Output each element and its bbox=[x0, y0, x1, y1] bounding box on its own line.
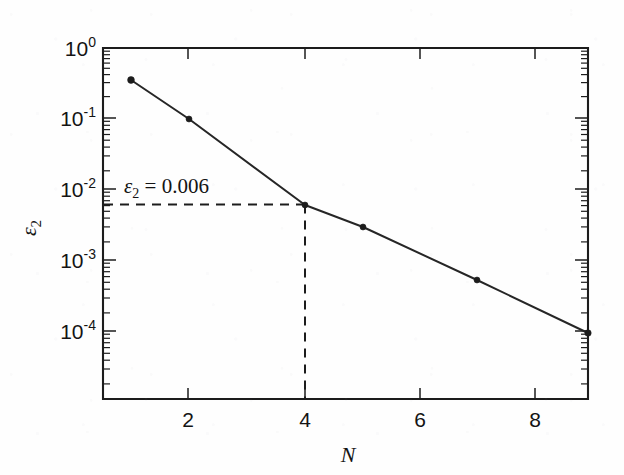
epsilon-threshold-annotation: ε2 = 0.006 bbox=[124, 174, 209, 201]
figure-canvas: 100 10-1 10-2 10-3 10-4 2 4 6 8 N bbox=[0, 0, 624, 475]
x-axis-ticks-bottom bbox=[188, 388, 535, 399]
data-point bbox=[474, 277, 480, 283]
annotation-guide-lines bbox=[104, 205, 305, 399]
y-tick-label: 10-2 bbox=[60, 175, 96, 201]
log-error-convergence-chart: 100 10-1 10-2 10-3 10-4 2 4 6 8 N bbox=[0, 0, 624, 475]
y-tick-label: 10-3 bbox=[60, 246, 96, 272]
error-convergence-line bbox=[131, 80, 588, 333]
y-axis-right-major-ticks bbox=[575, 48, 588, 331]
x-axis-ticks-top bbox=[188, 48, 535, 59]
axis-frame bbox=[103, 48, 588, 399]
data-point bbox=[302, 202, 308, 208]
data-point bbox=[585, 330, 591, 336]
x-tick-label: 2 bbox=[182, 408, 194, 431]
y-tick-label: 100 bbox=[65, 34, 96, 60]
y-axis-major-ticks bbox=[103, 48, 116, 399]
y-axis-title: ε2 bbox=[16, 220, 44, 236]
y-tick-label: 10-1 bbox=[60, 104, 96, 130]
x-tick-label: 8 bbox=[529, 408, 541, 431]
data-point bbox=[128, 77, 135, 84]
data-point bbox=[186, 116, 192, 122]
data-point bbox=[360, 224, 366, 230]
x-axis-tick-labels: 2 4 6 8 bbox=[182, 408, 541, 431]
x-tick-label: 6 bbox=[414, 408, 426, 431]
x-tick-label: 4 bbox=[299, 408, 311, 431]
data-point-markers bbox=[128, 77, 592, 337]
y-tick-label: 10-4 bbox=[60, 317, 96, 343]
x-axis-title: N bbox=[340, 442, 357, 467]
y-axis-tick-labels: 100 10-1 10-2 10-3 10-4 bbox=[60, 34, 96, 343]
